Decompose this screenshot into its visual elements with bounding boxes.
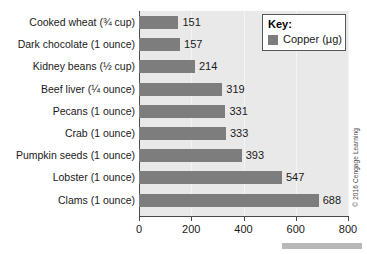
bar-value-label: 157 bbox=[184, 38, 202, 51]
bar-chart-figure: 0200400600800 Cooked wheat (¾ cup)151Dar… bbox=[0, 0, 367, 254]
category-label: Pecans (1 ounce) bbox=[1, 105, 135, 118]
x-tick-label-400: 400 bbox=[234, 223, 252, 236]
bar-value-label: 319 bbox=[226, 83, 244, 96]
bar bbox=[139, 83, 222, 96]
bar bbox=[139, 16, 178, 29]
x-tick-800 bbox=[348, 217, 349, 221]
x-tick-label-800: 800 bbox=[339, 223, 357, 236]
bar bbox=[139, 171, 282, 184]
bar bbox=[139, 194, 319, 207]
x-tick-200 bbox=[191, 217, 192, 221]
x-tick-label-200: 200 bbox=[182, 223, 200, 236]
legend-box: Key: Copper (µg) bbox=[262, 14, 346, 51]
category-label: Kidney beans (½ cup) bbox=[1, 60, 135, 73]
bar-value-label: 331 bbox=[229, 105, 247, 118]
bar bbox=[139, 149, 242, 162]
x-tick-400 bbox=[244, 217, 245, 221]
category-label: Lobster (1 ounce) bbox=[1, 171, 135, 184]
legend-entry-copper: Copper (µg) bbox=[268, 33, 340, 46]
x-tick-label-0: 0 bbox=[136, 223, 142, 236]
legend-swatch-copper bbox=[268, 35, 278, 45]
footer-artifact-bar bbox=[282, 243, 362, 249]
x-tick-0 bbox=[139, 217, 140, 221]
legend-title: Key: bbox=[268, 18, 340, 31]
copyright-credit: © 2016 Cengage Learning bbox=[352, 128, 359, 207]
category-label: Cooked wheat (¾ cup) bbox=[1, 16, 135, 29]
category-label: Clams (1 ounce) bbox=[1, 194, 135, 207]
bar-value-label: 214 bbox=[199, 60, 217, 73]
bar-value-label: 547 bbox=[286, 171, 304, 184]
bar bbox=[139, 60, 195, 73]
x-tick-label-600: 600 bbox=[287, 223, 305, 236]
bar bbox=[139, 38, 180, 51]
category-label: Pumpkin seeds (1 ounce) bbox=[1, 149, 135, 162]
bar-value-label: 393 bbox=[246, 149, 264, 162]
x-tick-600 bbox=[296, 217, 297, 221]
bar-value-label: 151 bbox=[182, 16, 200, 29]
category-label: Crab (1 ounce) bbox=[1, 127, 135, 140]
bar bbox=[139, 105, 225, 118]
bar bbox=[139, 127, 226, 140]
category-label: Dark chocolate (1 ounce) bbox=[1, 38, 135, 51]
gridline-800 bbox=[348, 11, 349, 216]
bar-value-label: 688 bbox=[323, 194, 341, 207]
bar-value-label: 333 bbox=[230, 127, 248, 140]
legend-label-copper: Copper (µg) bbox=[283, 33, 342, 46]
category-label: Beef liver (¼ ounce) bbox=[1, 83, 135, 96]
